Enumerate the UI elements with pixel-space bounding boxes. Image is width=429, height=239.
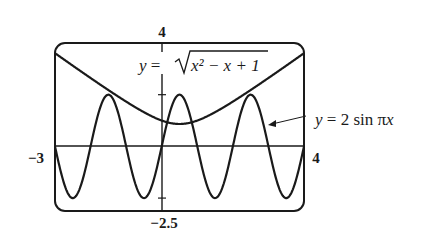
sqrt-label-prefix: y =	[137, 56, 160, 75]
x-max-label: 4	[312, 150, 320, 166]
sine-equation-label: y = 2 sin πx	[313, 110, 394, 129]
sqrt-radicand: x² − x + 1	[190, 56, 260, 75]
x-min-label: −3	[28, 150, 44, 166]
chart-canvas: 4 −3 4 −2.5 y = x² − x + 1 y = 2 sin πx	[0, 0, 429, 239]
y-max-label: 4	[158, 24, 166, 40]
y-min-label: −2.5	[150, 215, 177, 231]
arrow-head-icon	[268, 120, 276, 127]
annotation-arrow-line	[272, 116, 306, 124]
sqrt-equation-label: y = x² − x + 1	[137, 51, 268, 75]
